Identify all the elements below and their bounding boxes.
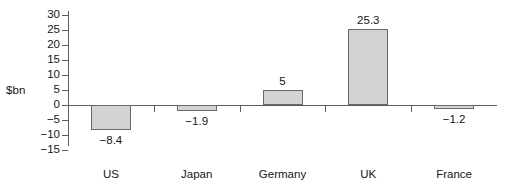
- y-tick-label-wrap: −10: [30, 129, 60, 141]
- y-tick-label-wrap: 5: [30, 84, 60, 96]
- category-label-us: US: [71, 168, 151, 181]
- y-tick-label-wrap: −5: [30, 114, 60, 126]
- x-tick-mark: [240, 106, 241, 112]
- category-label-japan: Japan: [157, 168, 237, 181]
- y-tick-label: −10: [32, 129, 60, 141]
- y-tick-mark: [62, 135, 68, 136]
- y-tick-mark: [62, 30, 68, 31]
- bar-value-label: −1.2: [424, 113, 484, 125]
- y-tick-mark: [62, 150, 68, 151]
- bar-japan: [177, 105, 217, 111]
- y-tick-label: 5: [32, 84, 60, 96]
- y-tick-label-wrap: 30: [30, 9, 60, 21]
- y-tick-mark: [62, 60, 68, 61]
- y-tick-label: 25: [32, 24, 60, 36]
- bar-value-label: −8.4: [81, 134, 141, 146]
- plot-area: 302520151050−5−10−15 −8.4−1.9525.3−1.2 U…: [0, 0, 507, 192]
- y-tick-label-wrap: 0: [30, 99, 60, 111]
- bar-value-label: 25.3: [338, 14, 398, 26]
- y-tick-mark: [62, 105, 68, 106]
- y-tick-label-wrap: 25: [30, 24, 60, 36]
- y-tick-label: 10: [32, 69, 60, 81]
- x-axis-line: [68, 105, 497, 106]
- bar-value-label: 5: [253, 75, 313, 87]
- y-tick-mark: [62, 75, 68, 76]
- bar-chart: $bn 302520151050−5−10−15 −8.4−1.9525.3−1…: [0, 0, 507, 192]
- x-tick-mark: [411, 106, 412, 112]
- y-tick-label-wrap: 20: [30, 39, 60, 51]
- category-label-uk: UK: [328, 168, 408, 181]
- y-tick-label-wrap: −15: [30, 144, 60, 156]
- x-tick-mark: [325, 106, 326, 112]
- y-tick-label-wrap: 10: [30, 69, 60, 81]
- bar-us: [91, 105, 131, 130]
- bar-germany: [263, 90, 303, 105]
- y-tick-label: 30: [32, 9, 60, 21]
- y-tick-label-wrap: 15: [30, 54, 60, 66]
- y-tick-label: −5: [32, 114, 60, 126]
- bar-uk: [348, 29, 388, 105]
- y-tick-mark: [62, 15, 68, 16]
- y-tick-label: 0: [32, 99, 60, 111]
- y-tick-mark: [62, 120, 68, 121]
- bar-france: [434, 105, 474, 109]
- y-tick-mark: [62, 45, 68, 46]
- y-tick-label: −15: [32, 144, 60, 156]
- category-label-germany: Germany: [243, 168, 323, 181]
- y-tick-label: 20: [32, 39, 60, 51]
- y-axis-line: [68, 11, 69, 146]
- bar-value-label: −1.9: [167, 115, 227, 127]
- category-label-france: France: [414, 168, 494, 181]
- x-tick-mark: [154, 106, 155, 112]
- y-tick-mark: [62, 90, 68, 91]
- y-tick-label: 15: [32, 54, 60, 66]
